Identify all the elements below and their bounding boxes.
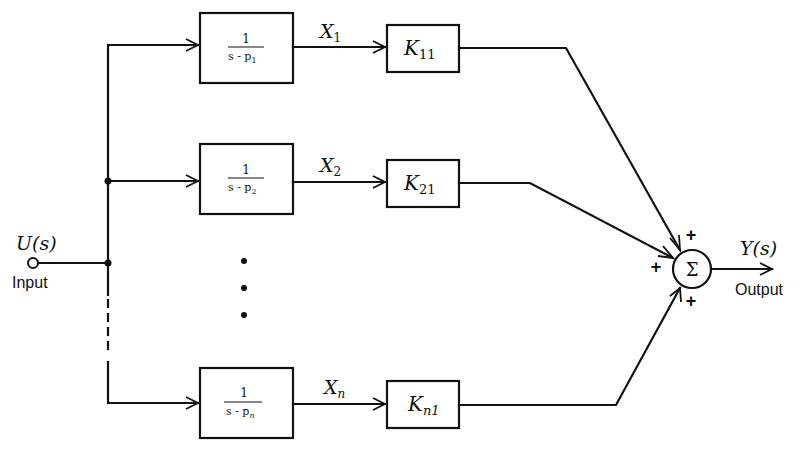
- numerator: 1: [242, 32, 250, 46]
- input-signal-label: U(s): [16, 232, 57, 254]
- output-path: [711, 263, 772, 275]
- state-label-2: X2: [318, 154, 341, 179]
- branch-1: 1 s - p1 X1 K11: [108, 13, 680, 250]
- sign-left: +: [651, 257, 662, 277]
- sign-bottom: +: [686, 291, 697, 311]
- ellipsis-dots: [241, 258, 247, 318]
- output-label: Output: [735, 281, 784, 298]
- block-diagram: U(s) Input 1 s - p1 X1 K11 1 s - p2: [0, 0, 810, 459]
- pole-block-2: [200, 144, 293, 214]
- numerator: 1: [242, 163, 250, 177]
- branch-2: 1 s - p2 X2 K21: [108, 144, 673, 258]
- state-label-1: X1: [318, 20, 341, 45]
- state-label-n: Xn: [322, 376, 345, 401]
- sign-top: +: [686, 225, 697, 245]
- input-label: Input: [12, 274, 48, 291]
- numerator: 1: [240, 386, 248, 400]
- summing-junction: Σ: [673, 250, 711, 288]
- output-signal-label: Y(s): [740, 237, 777, 259]
- distribution-bus: [105, 45, 112, 403]
- sigma-symbol: Σ: [686, 259, 699, 280]
- branch-n: 1 s - pn Xn Kn1: [108, 288, 681, 438]
- input-path: [28, 258, 112, 268]
- input-terminal: [28, 258, 38, 268]
- pole-block-1: [200, 13, 293, 83]
- pole-block-n: [200, 368, 293, 438]
